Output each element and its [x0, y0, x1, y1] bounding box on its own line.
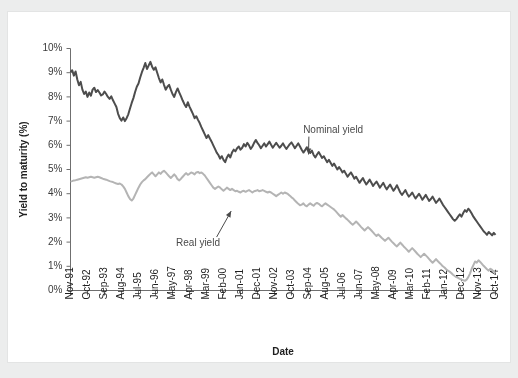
- figure-root: [0, 0, 518, 378]
- yield-to-maturity-line-chart: [0, 0, 518, 378]
